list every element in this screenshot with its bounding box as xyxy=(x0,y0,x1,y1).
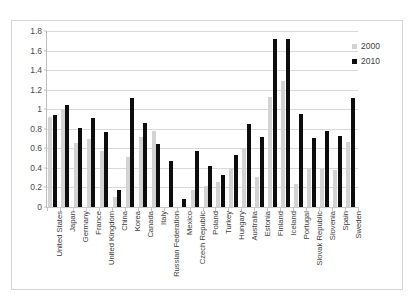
bar[interactable] xyxy=(104,132,108,207)
bar-group[interactable] xyxy=(86,31,99,207)
bar[interactable] xyxy=(130,98,134,208)
bar[interactable] xyxy=(139,137,143,207)
legend-item-2010[interactable]: 2010 xyxy=(352,54,396,69)
bar-group[interactable] xyxy=(138,31,151,207)
bar[interactable] xyxy=(65,105,69,207)
bar[interactable] xyxy=(255,177,259,207)
bar-group[interactable] xyxy=(228,31,241,207)
bar[interactable] xyxy=(338,136,342,207)
x-axis-label: China xyxy=(121,211,129,231)
bar[interactable] xyxy=(169,161,173,207)
y-axis-tick-label: 1.6 xyxy=(30,46,42,55)
x-axis-label: Hungary xyxy=(238,211,246,240)
bar[interactable] xyxy=(294,184,298,207)
y-axis-tick-label: 1.8 xyxy=(30,27,42,36)
bar-group[interactable] xyxy=(293,31,306,207)
bar[interactable] xyxy=(325,131,329,207)
bar-group[interactable] xyxy=(332,31,345,207)
bar[interactable] xyxy=(221,175,225,207)
bar[interactable] xyxy=(286,39,290,207)
bar[interactable] xyxy=(281,81,285,207)
bar-group[interactable] xyxy=(60,31,73,207)
x-axis-label: France xyxy=(95,211,103,235)
x-axis-label: Australia xyxy=(251,211,259,241)
bar[interactable] xyxy=(48,117,52,207)
bar[interactable] xyxy=(333,170,337,207)
bar-group[interactable] xyxy=(203,31,216,207)
bar-group[interactable] xyxy=(73,31,86,207)
bar[interactable] xyxy=(260,137,264,207)
y-axis-tick-label: 0 xyxy=(37,203,42,212)
bar-group[interactable] xyxy=(164,31,177,207)
legend-label-2000: 2000 xyxy=(361,42,380,51)
bar[interactable] xyxy=(351,98,355,207)
bar[interactable] xyxy=(126,157,130,207)
y-axis-tick-label: 0.2 xyxy=(30,183,42,192)
bar[interactable] xyxy=(229,169,233,207)
bar[interactable] xyxy=(87,139,91,207)
x-axis-label: Iceland xyxy=(290,211,298,236)
x-axis-label: United States xyxy=(56,211,64,257)
bar-group[interactable] xyxy=(177,31,190,207)
x-axis-label: Russian Federation xyxy=(173,211,181,277)
bar[interactable] xyxy=(307,168,311,207)
bar[interactable] xyxy=(74,143,78,207)
bar[interactable] xyxy=(191,190,195,207)
legend-item-2000[interactable]: 2000 xyxy=(352,39,396,54)
bar[interactable] xyxy=(117,190,121,207)
bar[interactable] xyxy=(91,118,95,207)
bar-group[interactable] xyxy=(190,31,203,207)
bar-group[interactable] xyxy=(99,31,112,207)
bar[interactable] xyxy=(312,138,316,207)
bar[interactable] xyxy=(247,124,251,207)
bar-group[interactable] xyxy=(241,31,254,207)
bar[interactable] xyxy=(152,131,156,207)
y-axis-tick-label: 0.6 xyxy=(30,144,42,153)
bar[interactable] xyxy=(61,109,65,207)
bar[interactable] xyxy=(53,115,57,207)
x-axis-label: Turkey xyxy=(225,211,233,234)
x-axis-label: Czech Republic xyxy=(199,211,207,264)
bar-group[interactable] xyxy=(151,31,164,207)
bar[interactable] xyxy=(234,155,238,207)
bar[interactable] xyxy=(273,39,277,207)
bar-group[interactable] xyxy=(306,31,319,207)
bar-group[interactable] xyxy=(267,31,280,207)
bar[interactable] xyxy=(113,197,117,207)
bar-group[interactable] xyxy=(280,31,293,207)
bar-group[interactable] xyxy=(319,31,332,207)
bar[interactable] xyxy=(208,166,212,207)
bar-group[interactable] xyxy=(112,31,125,207)
legend-label-2010: 2010 xyxy=(361,57,380,66)
y-axis-tick-label: 1 xyxy=(37,105,42,114)
y-axis-tick-label: 1.4 xyxy=(30,66,42,75)
x-axis-category-labels: United StatesJapanGermanyFranceUnited Ki… xyxy=(47,211,358,289)
bar[interactable] xyxy=(195,151,199,207)
bar[interactable] xyxy=(268,97,272,207)
bar-group[interactable] xyxy=(125,31,138,207)
bar[interactable] xyxy=(204,186,208,208)
x-axis-label: Italy xyxy=(160,211,168,225)
bar[interactable] xyxy=(299,114,303,207)
bar-group[interactable] xyxy=(47,31,60,207)
x-axis-label: Estonia xyxy=(264,211,272,236)
bar[interactable] xyxy=(182,199,186,207)
x-axis-label: Slovak Republic xyxy=(316,211,324,265)
x-axis-label: Poland xyxy=(212,211,220,235)
legend-swatch-2010-icon xyxy=(352,59,357,64)
bar-group[interactable] xyxy=(215,31,228,207)
bar[interactable] xyxy=(242,148,246,207)
bar[interactable] xyxy=(216,182,220,207)
x-axis-label: Spain xyxy=(342,211,350,230)
bar[interactable] xyxy=(156,144,160,207)
y-axis-tick-labels: 00.20.40.60.811.21.41.61.8 xyxy=(12,31,42,207)
bar[interactable] xyxy=(143,123,147,207)
bar-series-container xyxy=(47,31,358,207)
bar-group[interactable] xyxy=(254,31,267,207)
bar[interactable] xyxy=(78,128,82,207)
bar[interactable] xyxy=(346,142,350,207)
bar[interactable] xyxy=(320,169,324,207)
bar[interactable] xyxy=(100,151,104,207)
x-axis-label: Canada xyxy=(147,211,155,238)
x-axis-label: Korea xyxy=(134,211,142,231)
